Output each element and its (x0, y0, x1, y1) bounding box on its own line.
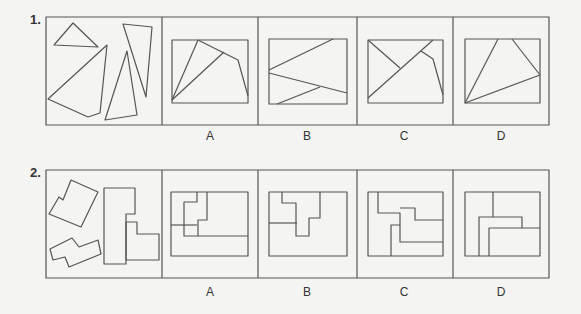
question-2-option-d-cut-line (489, 228, 540, 256)
question-1-option-b-cut-line (269, 73, 347, 93)
question-2-option-d-cut-line (479, 217, 493, 256)
question-1-option-a-cut-line (198, 40, 248, 96)
question-2-piece-S-piece (50, 238, 101, 267)
question-1-option-c-cut-line (368, 40, 400, 68)
question-1-option-a-cut-line (172, 52, 224, 100)
question-2-option-a-frame[interactable] (171, 192, 248, 256)
question-2-option-b-cut-line (282, 192, 320, 236)
question-2-option-d-cut-line (493, 192, 522, 228)
question-2-option-b-frame[interactable] (269, 192, 347, 256)
question-1-piece-triangle (105, 51, 137, 120)
question-2-option-d-frame[interactable] (465, 192, 540, 256)
question-1-option-c-cut-line (421, 51, 443, 95)
question-1-option-d-frame[interactable] (465, 39, 540, 103)
question-2-option-c-frame[interactable] (368, 192, 443, 256)
question-1-option-d-cut-line (465, 75, 540, 103)
question-1-option-b-frame[interactable] (269, 39, 347, 104)
question-2-option-a-cut-line (198, 192, 207, 236)
question-2-piece-L-pentomino (49, 180, 98, 227)
question-1-option-b-cut-line (277, 87, 320, 104)
question-2-option-c-cut-line (400, 208, 443, 220)
question-1-option-d-cut-line (512, 39, 540, 75)
question-1-option-d-cut-line (465, 39, 498, 103)
puzzle-canvas (0, 0, 581, 314)
question-2-option-c-cut-line (378, 192, 443, 242)
question-1-outer-frame (46, 17, 549, 125)
question-1-option-a-cut-line (172, 40, 198, 100)
question-2-piece-tall-L (104, 188, 135, 264)
question-1-option-b-cut-line (269, 39, 333, 70)
question-1-piece-quadrilateral (123, 24, 152, 97)
question-1-piece-quadrilateral (48, 45, 107, 117)
question-2-outer-frame (46, 170, 549, 278)
question-2-piece-small-L (126, 222, 159, 260)
question-1-piece-triangle (54, 23, 98, 47)
question-2-option-a-cut-line (184, 192, 248, 236)
question-2-option-c-cut-line (391, 225, 400, 256)
question-1-option-a-frame[interactable] (172, 40, 248, 103)
